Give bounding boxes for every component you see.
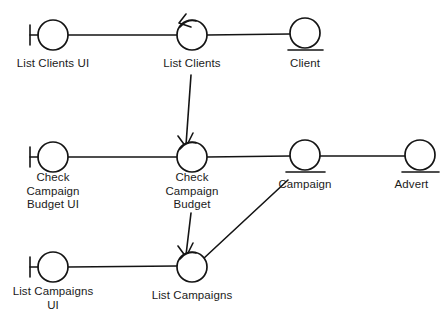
diagram-canvas: List Clients UI List Clients Client Chec… [0, 0, 447, 321]
entity-icon-circle [290, 18, 320, 48]
connector-check-budget-to-campaign[interactable] [207, 156, 290, 157]
node-list-campaigns[interactable] [177, 252, 207, 282]
boundary-icon-circle [38, 252, 68, 282]
node-check-campaign-budget[interactable] [177, 142, 207, 172]
node-label-client: Client [259, 57, 351, 71]
node-label-check-campaign-budget-ui: Check Campaign Budget UI [0, 171, 106, 212]
node-list-campaigns-ui[interactable] [30, 252, 68, 282]
node-client[interactable] [288, 18, 323, 50]
node-list-clients-ui[interactable] [30, 20, 68, 50]
node-check-campaign-budget-ui[interactable] [30, 142, 68, 172]
node-label-advert: Advert [376, 178, 447, 192]
node-label-list-campaigns-ui: List Campaigns UI [0, 285, 106, 312]
diagram-vector-layer [0, 0, 447, 321]
node-list-clients[interactable] [177, 14, 207, 50]
node-label-list-clients-ui: List Clients UI [0, 57, 106, 71]
connector-list-campaigns-ui-to-list-campaigns[interactable] [68, 266, 177, 267]
entity-icon-circle [405, 140, 435, 170]
node-label-campaign: Campaign [259, 178, 351, 192]
arrow-check-budget-to-list-campaigns[interactable] [178, 213, 193, 257]
entity-icon-circle [290, 140, 320, 170]
node-advert[interactable] [402, 140, 439, 172]
node-label-list-campaigns: List Campaigns [126, 289, 258, 303]
node-label-check-campaign-budget: Check Campaign Budget [140, 171, 244, 212]
arrow-list-clients-to-check-budget[interactable] [178, 75, 193, 147]
boundary-icon-circle [38, 20, 68, 50]
node-campaign[interactable] [286, 140, 325, 172]
node-label-list-clients: List Clients [140, 57, 244, 71]
boundary-icon-circle [38, 142, 68, 172]
connector-list-clients-to-client[interactable] [207, 34, 290, 35]
